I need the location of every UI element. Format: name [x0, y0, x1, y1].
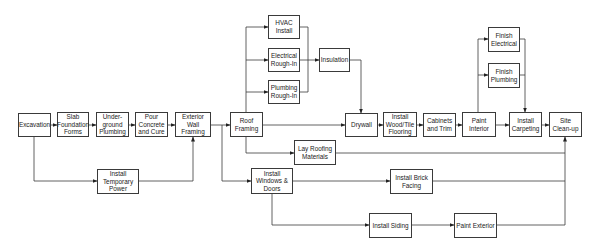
- node-excavation: Excavation: [18, 113, 51, 137]
- node-site-clean-up: Site Clean-up: [549, 112, 582, 137]
- node-slab-foundation-forms: Slab Foundation Forms: [57, 112, 89, 137]
- node-drywall: Drywall: [345, 113, 378, 137]
- node-install-windows-doors: Install Windows & Doors: [251, 168, 293, 194]
- node-exterior-wall-framing: Exterior Wall Framing: [175, 112, 211, 137]
- node-plumbing-rough-in: Plumbing Rough-In: [268, 80, 300, 104]
- node-pour-concrete: Pour Concrete and Cure: [135, 112, 168, 137]
- node-hvac-install: HVAC Install: [268, 15, 300, 39]
- node-install-siding: Install Siding: [369, 213, 412, 238]
- node-underground-plumbing: Under- ground Plumbing: [96, 112, 129, 137]
- node-finish-plumbing: Finish Plumbing: [488, 63, 520, 88]
- node-install-carpeting: Install Carpeting: [509, 112, 542, 137]
- node-finish-electrical: Finish Electrical: [488, 27, 520, 52]
- node-paint-interior: Paint Interior: [462, 112, 496, 137]
- construction-flowchart: Excavation Slab Foundation Forms Under- …: [0, 0, 608, 251]
- node-paint-exterior: Paint Exterior: [454, 213, 497, 238]
- node-install-temporary-power: Install Temporary Power: [97, 169, 139, 194]
- node-roof-framing: Roof Framing: [230, 112, 263, 137]
- node-lay-roofing-materials: Lay Roofing Materials: [294, 140, 336, 165]
- node-insulation: Insulation: [319, 48, 350, 72]
- node-install-wood-tile-flooring: Install Wood/Tile Flooring: [383, 112, 417, 137]
- node-install-brick-facing: Install Brick Facing: [390, 169, 433, 194]
- node-electrical-rough-in: Electrical Rough-In: [268, 48, 300, 72]
- node-cabinets-and-trim: Cabinets and Trim: [423, 113, 456, 137]
